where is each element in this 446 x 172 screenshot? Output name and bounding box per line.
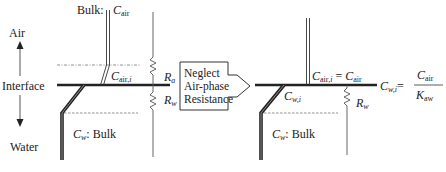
down-arrow-icon	[17, 95, 24, 127]
water-bulk-label-right: Cw: Bulk	[272, 127, 315, 142]
left-panel: Air Interface Water Bulk:	[2, 3, 177, 160]
resistor-network-right	[344, 85, 350, 155]
resistance-ra-label: Ra	[163, 70, 175, 85]
water-concentration-profile-right	[261, 85, 284, 160]
air-bulk-symbol: Cair	[113, 3, 130, 18]
interface-label: Interface	[2, 79, 45, 93]
air-concentration-profile-right	[307, 18, 310, 85]
two-film-diagram: Air Interface Water Bulk:	[0, 0, 446, 172]
fraction-denominator: Kaw	[415, 88, 434, 103]
henry-law-equation: Cw,i= Cair Kaw	[380, 68, 443, 103]
air-bulk-label: Bulk:	[77, 3, 104, 17]
air-interface-equation: Cair,i = Cair	[312, 69, 362, 84]
up-arrow-icon	[17, 41, 24, 76]
water-concentration-profile	[62, 85, 84, 160]
water-interface-concentration-label: Cw,i	[284, 89, 301, 104]
water-bulk-label: Cw: Bulk	[73, 127, 116, 142]
resistance-rw-label: Rw	[163, 93, 177, 108]
air-label: Air	[9, 26, 25, 40]
water-label: Water	[10, 140, 38, 154]
resistor-ra-icon	[150, 57, 156, 75]
air-concentration-profile	[101, 10, 110, 85]
arrow-text-line-3: Resistance	[184, 93, 233, 105]
resistance-rw-right-label: Rw	[355, 96, 369, 111]
fraction-numerator: Cair	[417, 68, 434, 83]
svg-text:Cw,i=: Cw,i=	[380, 79, 404, 94]
arrow-text-line-1: Neglect	[184, 67, 221, 80]
right-panel: Cair,i = Cair Cw,i Cw,i= Cair Kaw Cw: Bu…	[255, 18, 443, 160]
neglect-air-phase-arrow: Neglect Air-phase Resistance	[180, 62, 250, 110]
air-interface-concentration-label: Cair,i	[111, 69, 131, 84]
resistor-rw-right-icon	[344, 85, 350, 155]
arrow-text-line-2: Air-phase	[184, 80, 229, 93]
resistor-rw-icon	[150, 92, 156, 110]
